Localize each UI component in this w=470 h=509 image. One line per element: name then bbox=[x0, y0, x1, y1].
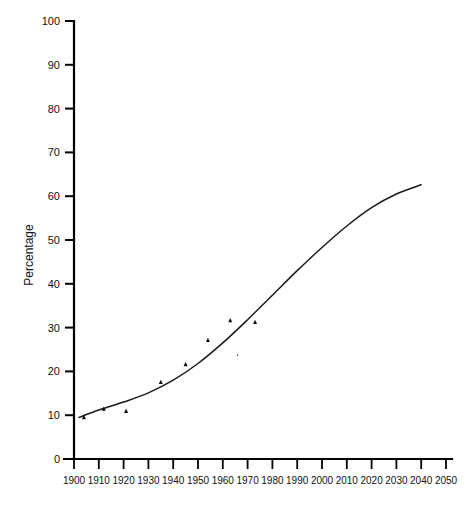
y-tick-label: 30 bbox=[48, 322, 60, 334]
y-axis-title: Percentage bbox=[22, 224, 36, 286]
x-tick-label: 2020 bbox=[360, 475, 383, 486]
x-tick-label: 1990 bbox=[286, 475, 309, 486]
y-tick-label: 60 bbox=[48, 190, 60, 202]
y-tick-label: 0 bbox=[54, 453, 60, 465]
x-tick-label: 1980 bbox=[261, 475, 284, 486]
y-tick-label: 10 bbox=[48, 409, 60, 421]
x-tick-label: 2040 bbox=[410, 475, 433, 486]
x-tick-label: 2000 bbox=[311, 475, 334, 486]
y-tick-label: 20 bbox=[48, 365, 60, 377]
y-tick-label: 50 bbox=[48, 234, 60, 246]
chart-container: 0102030405060708090100 19001910192019301… bbox=[0, 0, 470, 509]
y-tick-label: 80 bbox=[48, 103, 60, 115]
x-tick-label: 2030 bbox=[385, 475, 408, 486]
x-tick-label: 1970 bbox=[236, 475, 259, 486]
x-tick-label: 1930 bbox=[137, 475, 160, 486]
x-tick-label: 1910 bbox=[88, 475, 111, 486]
x-tick-label: 1950 bbox=[187, 475, 210, 486]
x-tick-label: 2050 bbox=[435, 475, 458, 486]
x-tick-label: 1960 bbox=[212, 475, 235, 486]
percentage-trend-chart: 0102030405060708090100 19001910192019301… bbox=[0, 0, 470, 509]
y-tick-label: 70 bbox=[48, 146, 60, 158]
plot-background bbox=[0, 0, 470, 509]
x-tick-label: 1940 bbox=[162, 475, 185, 486]
x-tick-label: 2010 bbox=[336, 475, 359, 486]
y-tick-label: 100 bbox=[42, 15, 60, 27]
x-tick-label: 1900 bbox=[63, 475, 86, 486]
x-tick-label: 1920 bbox=[112, 475, 135, 486]
y-tick-label: 90 bbox=[48, 59, 60, 71]
y-tick-label: 40 bbox=[48, 278, 60, 290]
